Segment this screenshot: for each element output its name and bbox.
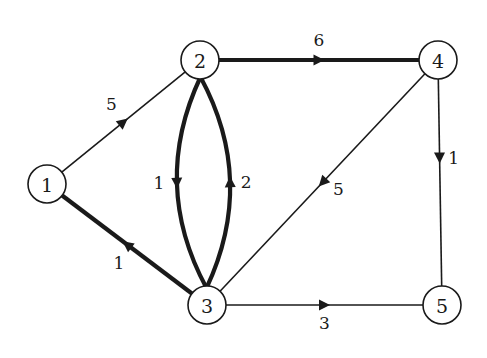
edge-weight-label: 3	[319, 313, 330, 333]
edge-3-to-5: 3	[226, 300, 423, 334]
edge-1-to-2: 5	[62, 72, 185, 172]
edge-weight-label: 1	[153, 173, 164, 193]
node-2: 2	[181, 41, 219, 79]
arrowhead-icon	[225, 176, 236, 187]
edge-weight-label: 5	[333, 179, 344, 199]
node-3: 3	[188, 286, 226, 324]
node-label: 2	[194, 50, 206, 72]
edge-4-to-5: 1	[434, 79, 459, 286]
arrowhead-icon	[314, 55, 325, 66]
edge-weight-label: 1	[448, 148, 459, 168]
node-label: 1	[41, 174, 53, 196]
edge-weight-label: 1	[114, 253, 125, 273]
node-label: 3	[201, 295, 213, 317]
edge-line	[177, 77, 207, 288]
edge-line	[200, 77, 230, 288]
arrowhead-icon	[116, 119, 128, 130]
edge-2-to-4: 6	[219, 30, 419, 66]
edge-weight-label: 5	[106, 94, 117, 114]
graph-diagram: 56121513 12345	[0, 0, 487, 358]
edge-2-to-3: 1	[153, 77, 206, 288]
edge-3-to-2: 2	[200, 77, 251, 288]
edge-weight-label: 2	[241, 172, 252, 192]
node-1: 1	[28, 165, 66, 203]
arrowhead-icon	[319, 300, 330, 311]
edge-weight-label: 6	[314, 30, 325, 50]
node-label: 5	[436, 295, 448, 317]
arrowhead-icon	[434, 152, 445, 163]
node-label: 4	[432, 50, 444, 72]
edge-3-to-1: 1	[62, 195, 192, 293]
edge-line	[438, 79, 441, 286]
node-5: 5	[423, 286, 461, 324]
edges-layer: 56121513	[62, 30, 459, 333]
node-4: 4	[419, 41, 457, 79]
arrowhead-icon	[171, 178, 182, 189]
